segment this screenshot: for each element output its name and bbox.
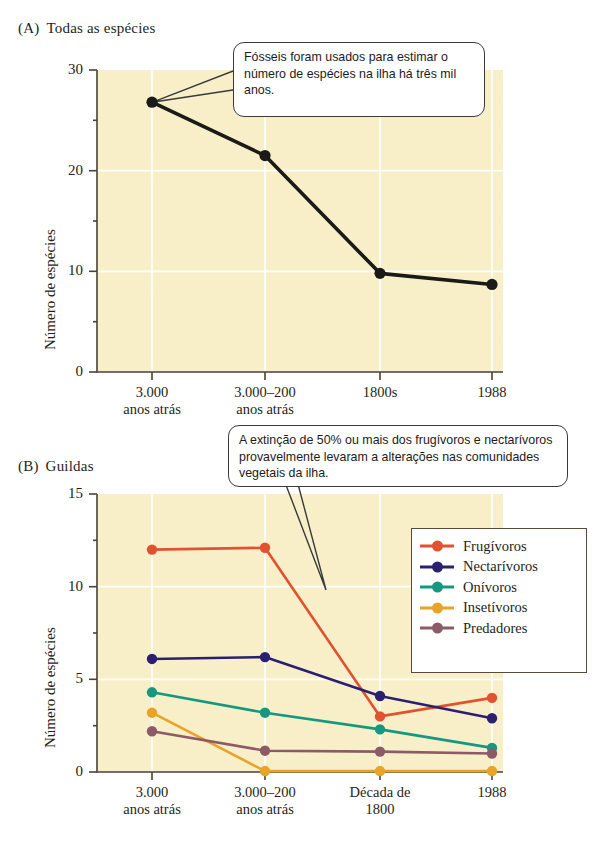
legend-item[interactable]: Onívoros	[420, 577, 576, 598]
panel-b-point	[487, 693, 497, 703]
legend-item[interactable]: Predadores	[420, 618, 576, 639]
panel-b-point	[147, 687, 157, 697]
panel-b-point	[375, 766, 385, 776]
legend-label: Insetívoros	[463, 599, 527, 616]
panel-b-ylabel-10: 10	[53, 578, 83, 595]
panel-b-point	[375, 724, 385, 734]
panel-b-point	[260, 652, 270, 662]
panel-b-series-line	[152, 731, 492, 753]
panel-b-point	[147, 654, 157, 664]
panel-b-point	[487, 713, 497, 723]
panel-b-xlabel-3: Década de 1800	[320, 784, 440, 818]
legend-label: Nectarívoros	[463, 558, 538, 575]
legend-marker-icon	[420, 539, 454, 553]
panel-b-point	[487, 766, 497, 776]
legend-item[interactable]: Nectarívoros	[420, 557, 576, 578]
legend-label: Predadores	[463, 620, 527, 637]
panel-b-point	[260, 766, 270, 776]
panel-b-point	[260, 543, 270, 553]
panel-b-point	[375, 746, 385, 756]
panel-b-xlabel-4: 1988	[442, 784, 542, 801]
panel-b-point	[147, 726, 157, 736]
legend-marker-icon	[420, 560, 454, 574]
panel-b-ylabel-5: 5	[53, 670, 83, 687]
panel-b-xlabel-2: 3.000–200 anos atrás	[205, 784, 325, 818]
panel-b-point	[260, 745, 270, 755]
legend-marker-icon	[420, 580, 454, 594]
legend-marker-icon	[420, 601, 454, 615]
legend-label: Frugívoros	[463, 538, 527, 555]
panel-b-point	[375, 691, 385, 701]
panel-b-ylabel-0: 0	[53, 763, 83, 780]
figure-root: (A)Todas as espécies Número de espécies	[0, 0, 596, 851]
panel-b-callout: A extinção de 50% ou mais dos frugívoros…	[228, 425, 568, 487]
panel-b-point	[375, 711, 385, 721]
legend-item[interactable]: Insetívoros	[420, 598, 576, 619]
panel-b-point	[487, 748, 497, 758]
legend-item[interactable]: Frugívoros	[420, 536, 576, 557]
panel-b-point	[147, 544, 157, 554]
panel-b-ylabel-15: 15	[53, 485, 83, 502]
panel-b-xlabel-1: 3.000 anos atrás	[92, 784, 212, 818]
panel-b-point	[147, 707, 157, 717]
legend-marker-icon	[420, 621, 454, 635]
panel-b-point	[260, 707, 270, 717]
panel-a-callout: Fósseis foram usados para estimar o núme…	[233, 42, 485, 117]
panel-b-legend: FrugívorosNectarívorosOnívorosInsetívoro…	[411, 528, 587, 673]
panel-b-callout-leader	[286, 484, 326, 590]
legend-label: Onívoros	[463, 579, 517, 596]
